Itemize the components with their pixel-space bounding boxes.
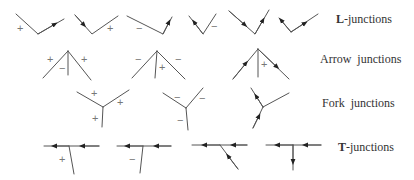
minus-sign: − (59, 62, 65, 74)
label-bold-letter: T (338, 140, 346, 154)
plus-sign: + (159, 61, 165, 73)
minus-sign: − (136, 22, 142, 34)
label-bold-letter: L (336, 12, 344, 26)
plus-sign: + (59, 153, 65, 165)
label-text: Arrow junctions (320, 52, 401, 66)
minus-sign: − (199, 92, 205, 104)
l-junction-5 (229, 10, 269, 34)
minus-sign: − (174, 91, 180, 103)
l-junction-3: − (127, 16, 172, 34)
l-junction-1: + (16, 14, 64, 34)
label-arrow-junctions: Arrow junctions (320, 52, 401, 67)
minus-sign: − (129, 153, 135, 165)
plus-sign: + (47, 53, 53, 65)
plus-sign: + (261, 58, 267, 70)
minus-sign: − (211, 20, 217, 32)
t-junction-4 (266, 145, 321, 170)
l-junction-4: − (189, 14, 217, 34)
t-junction-2: − (117, 146, 171, 173)
minus-sign: − (175, 53, 181, 65)
fork-junction-1: + + + (77, 87, 129, 127)
minus-sign: − (135, 53, 141, 65)
label-text: Fork junctions (322, 96, 395, 110)
arrow-junction-1: + − + (43, 51, 91, 80)
t-junction-3 (192, 145, 247, 169)
plus-sign: + (17, 22, 23, 34)
plus-sign: + (107, 22, 113, 34)
plus-sign: + (91, 87, 97, 99)
fork-junction-3 (251, 88, 289, 128)
arrow-junction-3: + (233, 49, 289, 79)
plus-sign: + (81, 53, 87, 65)
label-l-junctions: L-junctions (336, 12, 392, 27)
label-fork-junctions: Fork junctions (322, 96, 395, 111)
plus-sign: + (92, 112, 98, 124)
l-junction-6 (279, 14, 318, 32)
minus-sign: − (177, 114, 183, 126)
plus-sign: + (117, 96, 123, 108)
fork-junction-2: − − − (163, 88, 205, 130)
label-text: -junctions (346, 140, 394, 154)
t-junction-1: + (44, 146, 99, 174)
label-t-junctions: T-junctions (338, 140, 394, 155)
l-junction-2: + (75, 15, 118, 34)
label-text: -junctions (344, 12, 392, 26)
arrow-junction-2: − + − (132, 51, 185, 79)
